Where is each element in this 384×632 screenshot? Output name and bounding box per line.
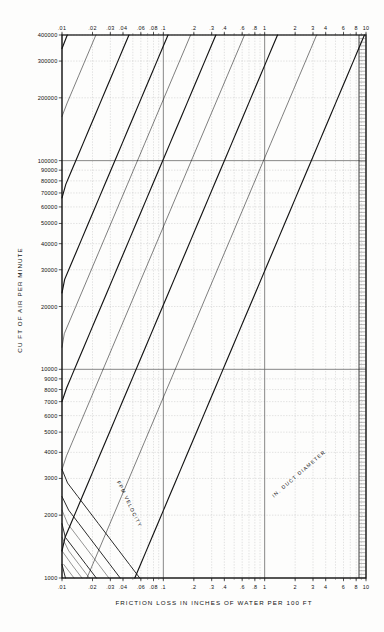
y-tick-20000: 20000 (41, 304, 58, 310)
x-tick-top-.1: .1 (161, 25, 166, 31)
y-tick-5000: 5000 (44, 429, 57, 435)
x-tick-bottom-2: 2 (294, 584, 297, 590)
x-tick-top-8: 8 (355, 25, 358, 31)
x-tick-top-.6: .6 (240, 25, 245, 31)
x-tick-bottom-8: 8 (355, 584, 358, 590)
y-tick-60000: 60000 (41, 204, 58, 210)
y-tick-80000: 80000 (41, 178, 58, 184)
x-tick-bottom-.1: .1 (161, 584, 166, 590)
x-tick-bottom-.01: .01 (58, 584, 66, 590)
y-tick-3000: 3000 (44, 475, 57, 481)
x-tick-bottom-1: 1 (263, 584, 266, 590)
x-tick-bottom-.04: .04 (119, 584, 127, 590)
y-tick-30000: 30000 (41, 267, 58, 273)
x-tick-top-3: 3 (311, 25, 314, 31)
x-tick-top-10: 10 (363, 25, 370, 31)
x-tick-bottom-.06: .06 (137, 584, 145, 590)
y-tick-6000: 6000 (44, 413, 57, 419)
x-tick-bottom-.02: .02 (88, 584, 96, 590)
y-tick-7000: 7000 (44, 399, 57, 405)
x-tick-top-2: 2 (294, 25, 297, 31)
x-tick-bottom-10: 10 (363, 584, 370, 590)
x-tick-top-.4: .4 (222, 25, 227, 31)
x-tick-bottom-4: 4 (324, 584, 327, 590)
x-tick-bottom-6: 6 (342, 584, 345, 590)
friction-loss-chart: .01.02.03.04.06.08.1.2.3.4.6.812346810 .… (0, 0, 384, 632)
x-tick-top-4: 4 (324, 25, 327, 31)
y-tick-40000: 40000 (41, 241, 58, 247)
x-tick-bottom-.03: .03 (106, 584, 114, 590)
x-tick-top-.08: .08 (149, 25, 157, 31)
x-tick-bottom-.3: .3 (209, 584, 214, 590)
x-tick-top-.8: .8 (252, 25, 257, 31)
x-tick-bottom-.6: .6 (240, 584, 245, 590)
x-tick-top-.2: .2 (191, 25, 196, 31)
x-tick-top-.02: .02 (88, 25, 96, 31)
chart-background (0, 0, 384, 632)
y-axis-label: CU FT OF AIR PER MINUTE (16, 247, 23, 352)
x-tick-top-.04: .04 (119, 25, 127, 31)
x-tick-top-1: 1 (263, 25, 266, 31)
y-tick-50000: 50000 (41, 220, 58, 226)
y-tick-300000: 300000 (38, 58, 58, 64)
x-tick-top-.01: .01 (58, 25, 66, 31)
y-tick-400000: 400000 (38, 32, 58, 38)
x-tick-bottom-.8: .8 (252, 584, 257, 590)
x-tick-top-.06: .06 (137, 25, 145, 31)
y-tick-10000: 10000 (41, 366, 58, 372)
y-tick-8000: 8000 (44, 387, 57, 393)
x-tick-bottom-3: 3 (311, 584, 314, 590)
y-tick-90000: 90000 (41, 167, 58, 173)
x-tick-top-.3: .3 (209, 25, 214, 31)
y-tick-4000: 4000 (44, 449, 57, 455)
x-tick-top-6: 6 (342, 25, 345, 31)
x-tick-top-.03: .03 (106, 25, 114, 31)
y-tick-100000: 100000 (38, 158, 58, 164)
y-tick-2000: 2000 (44, 512, 57, 518)
x-tick-bottom-.2: .2 (191, 584, 196, 590)
y-tick-9000: 9000 (44, 376, 57, 382)
chart-canvas: .01.02.03.04.06.08.1.2.3.4.6.812346810 .… (0, 0, 384, 632)
x-axis-label: FRICTION LOSS IN INCHES OF WATER PER 100… (115, 599, 312, 606)
y-tick-1000: 1000 (44, 575, 57, 581)
x-tick-bottom-.08: .08 (149, 584, 157, 590)
y-tick-70000: 70000 (41, 190, 58, 196)
y-tick-200000: 200000 (38, 95, 58, 101)
x-tick-bottom-.4: .4 (222, 584, 227, 590)
